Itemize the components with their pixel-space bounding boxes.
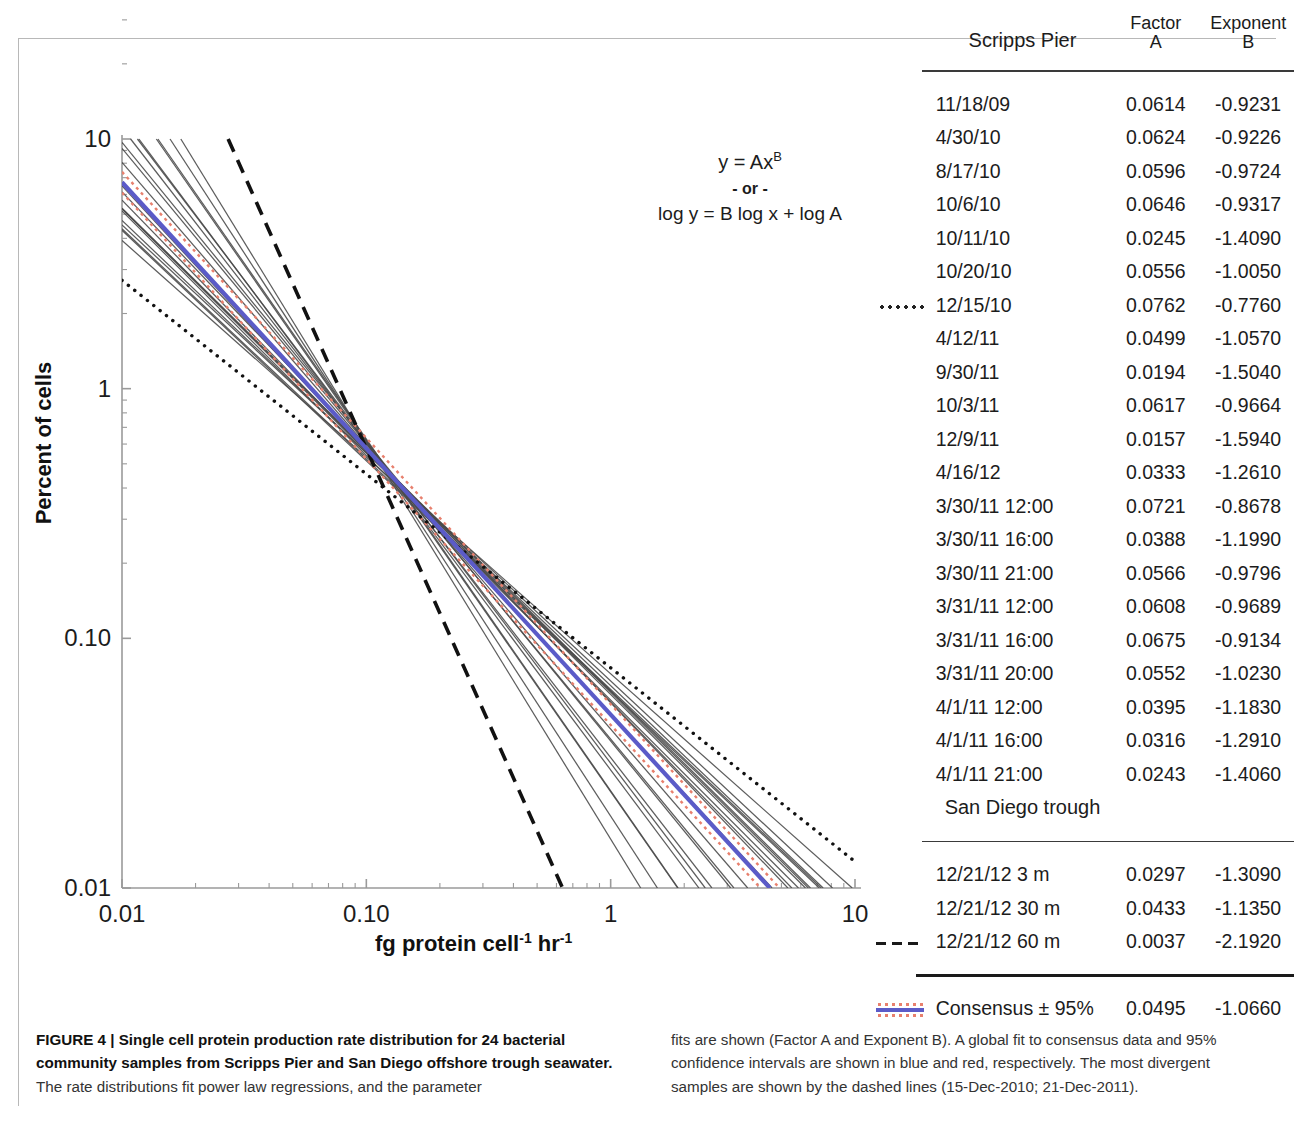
table-subheader-row: San Diego trough (860, 791, 1294, 825)
row-factor-a: 0.0243 (1109, 758, 1202, 792)
y-tick-label: 0.01 (64, 874, 111, 901)
row-marker-cell (860, 590, 932, 624)
row-marker-cell (860, 523, 932, 557)
dashed-line-icon (876, 941, 924, 945)
row-sample-name: 8/17/10 (932, 155, 1110, 189)
row-marker-cell (860, 356, 932, 390)
caption-title: FIGURE 4 | Single cell protein productio… (36, 1031, 612, 1071)
figure-caption: FIGURE 4 | Single cell protein productio… (36, 1028, 1268, 1098)
row-exponent-b: -1.0230 (1202, 657, 1294, 691)
header-factor-a: FactorA (1109, 14, 1202, 54)
y-tick-label: 1 (98, 375, 111, 402)
y-tick-label: 0.10 (64, 624, 111, 651)
subheader-spacer-b (1202, 791, 1294, 825)
table-header-rule-cell (860, 54, 1294, 88)
row-marker-cell (860, 624, 932, 658)
table-row: 10/3/110.0617-0.9664 (860, 389, 1294, 423)
row-sample-name: 4/1/11 12:00 (932, 691, 1110, 725)
row-factor-a: 0.0388 (1109, 523, 1202, 557)
regression-line (122, 208, 808, 888)
table-row: 4/30/100.0624-0.9226 (860, 121, 1294, 155)
row-marker-cell (860, 155, 932, 189)
row-exponent-b: -0.9796 (1202, 557, 1294, 591)
row-exponent-b: -0.8678 (1202, 490, 1294, 524)
table-header-row: Scripps Pier FactorA ExponentB (860, 14, 1294, 54)
row-sample-name: 3/30/11 21:00 (932, 557, 1110, 591)
row-marker-cell (860, 892, 932, 926)
row-exponent-b: -1.5040 (1202, 356, 1294, 390)
x-axis-title-text: fg protein cell (375, 931, 519, 956)
row-marker-cell (860, 255, 932, 289)
row-marker-cell (860, 121, 932, 155)
row-factor-a: 0.0614 (1109, 88, 1202, 122)
row-factor-a: 0.0556 (1109, 255, 1202, 289)
consensus-label: Consensus ± 95% (932, 992, 1110, 1026)
x-tick-label: 0.01 (99, 900, 146, 927)
row-exponent-b: -1.3090 (1202, 858, 1294, 892)
y-tick-label: 10 (84, 125, 111, 152)
figure-4: 0.010.101101010.100.01 Percent of cells … (0, 0, 1294, 1010)
row-sample-name: 10/11/10 (932, 222, 1110, 256)
table-bottom-rule (916, 974, 1294, 978)
caption-right-column: fits are shown (Factor A and Exponent B)… (671, 1028, 1268, 1098)
row-marker-cell (860, 423, 932, 457)
caption-left-rest: The rate distributions fit power law reg… (36, 1078, 482, 1095)
consensus-line-icon (876, 1003, 924, 1017)
table-row: 3/31/11 12:000.0608-0.9689 (860, 590, 1294, 624)
regression-line (181, 139, 641, 888)
table-row: 3/31/11 20:000.0552-1.0230 (860, 657, 1294, 691)
row-sample-name: 10/20/10 (932, 255, 1110, 289)
row-factor-a: 0.0646 (1109, 188, 1202, 222)
regression-line (122, 192, 788, 888)
table-subheader-rule (922, 841, 1294, 843)
header-factor-a-l1: Factor (1130, 13, 1181, 33)
consensus-exponent-b: -1.0660 (1202, 992, 1294, 1026)
table-row: 12/21/12 3 m0.0297-1.3090 (860, 858, 1294, 892)
subheader-group-label: San Diego trough (932, 791, 1110, 825)
header-exponent-b-l2: B (1242, 32, 1254, 52)
row-sample-name: 4/1/11 21:00 (932, 758, 1110, 792)
row-exponent-b: -0.9134 (1202, 624, 1294, 658)
row-exponent-b: -0.9724 (1202, 155, 1294, 189)
equation-line-1-exponent: B (773, 149, 782, 164)
row-exponent-b: -0.9689 (1202, 590, 1294, 624)
regression-line (139, 139, 699, 888)
row-sample-name: 12/21/12 60 m (932, 925, 1110, 959)
row-exponent-b: -1.0570 (1202, 322, 1294, 356)
ci-upper-line-icon (876, 1003, 924, 1006)
row-sample-name: 9/30/11 (932, 356, 1110, 390)
table-subheader-rule-cell (860, 825, 1294, 859)
row-marker-cell (860, 188, 932, 222)
row-marker-cell (860, 222, 932, 256)
row-exponent-b: -1.2910 (1202, 724, 1294, 758)
table-row: 8/17/100.0596-0.9724 (860, 155, 1294, 189)
row-exponent-b: -1.0050 (1202, 255, 1294, 289)
row-marker-cell (860, 322, 932, 356)
consensus-blue-line-icon (876, 1008, 924, 1012)
header-exponent-b-l1: Exponent (1210, 13, 1286, 33)
y-axis-title: Percent of cells (31, 353, 57, 533)
parameter-table: Scripps Pier FactorA ExponentB 11/18/090… (860, 14, 1294, 1026)
row-sample-name: 3/31/11 12:00 (932, 590, 1110, 624)
row-sample-name: 3/30/11 12:00 (932, 490, 1110, 524)
table-bottom-rule-cell (860, 959, 1294, 993)
equation-line-1-text: y = Ax (718, 151, 773, 173)
trough-head-body: San Diego trough (860, 791, 1294, 858)
regression-line (122, 172, 779, 888)
table-row: 4/1/11 12:000.0395-1.1830 (860, 691, 1294, 725)
row-marker-cell (860, 456, 932, 490)
row-exponent-b: -0.9664 (1202, 389, 1294, 423)
row-factor-a: 0.0316 (1109, 724, 1202, 758)
row-factor-a: 0.0617 (1109, 389, 1202, 423)
x-tick-label: 1 (604, 900, 617, 927)
table-header-rule (922, 70, 1294, 72)
row-exponent-b: -0.9317 (1202, 188, 1294, 222)
header-group-label: Scripps Pier (932, 14, 1110, 54)
row-factor-a: 0.0037 (1109, 925, 1202, 959)
row-sample-name: 12/9/11 (932, 423, 1110, 457)
regression-line (122, 225, 833, 888)
table-row: 10/11/100.0245-1.4090 (860, 222, 1294, 256)
row-sample-name: 4/16/12 (932, 456, 1110, 490)
plot-area: 0.010.101101010.100.01 Percent of cells … (0, 0, 900, 1010)
row-marker-cell (860, 657, 932, 691)
